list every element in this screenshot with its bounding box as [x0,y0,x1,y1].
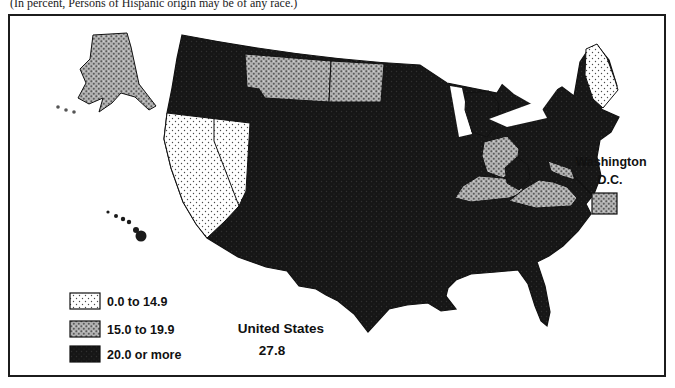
legend-label-mid: 15.0 to 19.9 [107,323,174,337]
legend: 0.0 to 14.9 15.0 to 19.9 20.0 or more [70,293,181,362]
legend-swatch-mid [70,321,100,337]
legend-swatch-low [70,293,100,309]
legend-label-low: 0.0 to 14.9 [107,295,167,309]
dc-callout-label-line2: D.C. [598,173,623,187]
dc-callout-label-line1: Washington [575,155,646,169]
top-caption: (In percent, Persons of Hispanic origin … [10,0,297,10]
us-choropleth-map: (In percent, Persons of Hispanic origin … [0,0,675,388]
us-summary-label: United States [238,321,324,336]
legend-label-high: 20.0 or more [107,348,181,362]
us-summary-value: 27.8 [259,343,286,358]
legend-swatch-high [70,346,100,362]
page: (In percent, Persons of Hispanic origin … [0,0,675,388]
region-washington-dc-swatch [592,193,617,214]
region-north-dakota [329,61,384,102]
